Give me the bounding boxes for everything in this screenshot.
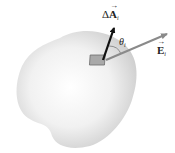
closed-surface — [17, 31, 137, 148]
field-vector-label: →Ei — [157, 45, 166, 57]
field-symbol: →E — [157, 44, 164, 56]
field-subscript: i — [164, 51, 166, 57]
area-patch — [89, 55, 105, 65]
flux-diagram — [0, 0, 175, 153]
area-symbol: →A — [109, 8, 117, 20]
area-subscript: i — [117, 15, 119, 21]
angle-label: θi — [119, 37, 126, 48]
area-vector-label: Δ→Ai — [102, 9, 119, 21]
theta-subscript: i — [124, 42, 126, 48]
